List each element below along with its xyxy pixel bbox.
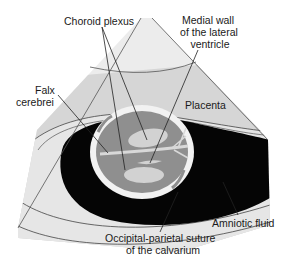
label-medial-wall-3: ventricle [177, 38, 243, 50]
label-medial-wall-1: Medial wall [177, 14, 239, 26]
label-medial-wall-2: of the lateral [173, 26, 245, 38]
label-amniotic-fluid: Amniotic fluid [212, 217, 274, 229]
label-suture-1: Occipital-parietal suture [105, 232, 215, 244]
label-falx-2: cerebrei [16, 96, 54, 108]
label-placenta: Placenta [185, 99, 226, 111]
label-choroid-plexus: Choroid plexus [64, 15, 134, 27]
choroid-plexus-lower [124, 167, 164, 183]
label-suture-2: of the calvarium [126, 244, 200, 256]
label-falx-1: Falx [35, 84, 55, 96]
